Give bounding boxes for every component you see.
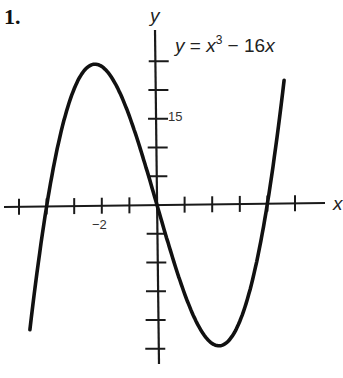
y-tick-label-15: 15	[168, 109, 182, 124]
y-axis-label: y	[150, 5, 160, 27]
x-axis	[4, 203, 325, 207]
eq-base: x	[206, 35, 216, 56]
x-axis-label: x	[333, 193, 343, 215]
problem-number: 1.	[4, 4, 21, 30]
eq-var: x	[265, 35, 275, 56]
eq-lhs: y	[175, 35, 185, 56]
eq-equals: =	[185, 35, 207, 56]
equation-label: y = x3 − 16x	[175, 33, 275, 57]
eq-rest: − 16	[222, 35, 265, 56]
x-tick-label-neg2: −2	[92, 217, 107, 232]
